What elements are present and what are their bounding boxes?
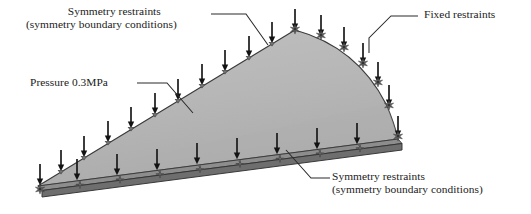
- label-pressure: Pressure 0.3MPa: [30, 76, 108, 89]
- label-fixed-restraints: Fixed restraints: [424, 8, 495, 21]
- leader-fixed: [369, 16, 418, 53]
- label-symmetry-top-line2: (symmetry boundary conditions): [26, 18, 177, 31]
- leader-symmetry-top: [211, 14, 268, 45]
- label-fixed-text: Fixed restraints: [424, 8, 495, 20]
- figure-canvas: Symmetry restraints (symmetry boundary c…: [0, 0, 531, 214]
- label-symmetry-bottom: Symmetry restraints (symmetry boundary c…: [332, 170, 483, 197]
- label-symmetry-bottom-line1: Symmetry restraints: [332, 170, 483, 183]
- label-symmetry-bottom-line2: (symmetry boundary conditions): [332, 183, 483, 196]
- label-pressure-text: Pressure 0.3MPa: [30, 76, 108, 88]
- label-symmetry-top-line1: Symmetry restraints: [26, 5, 177, 18]
- label-symmetry-top: Symmetry restraints (symmetry boundary c…: [26, 5, 177, 32]
